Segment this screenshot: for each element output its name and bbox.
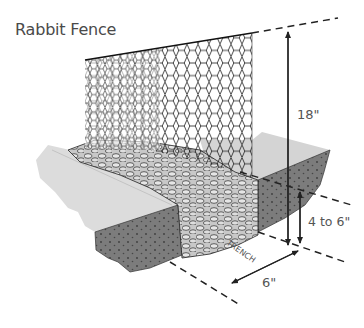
rabbit-fence-diagram: 18" 4 to 6" 6" TRENCH: [0, 0, 364, 328]
height-label: 18": [297, 107, 320, 122]
width-label: 6": [262, 275, 276, 290]
depth-label: 4 to 6": [308, 214, 350, 229]
